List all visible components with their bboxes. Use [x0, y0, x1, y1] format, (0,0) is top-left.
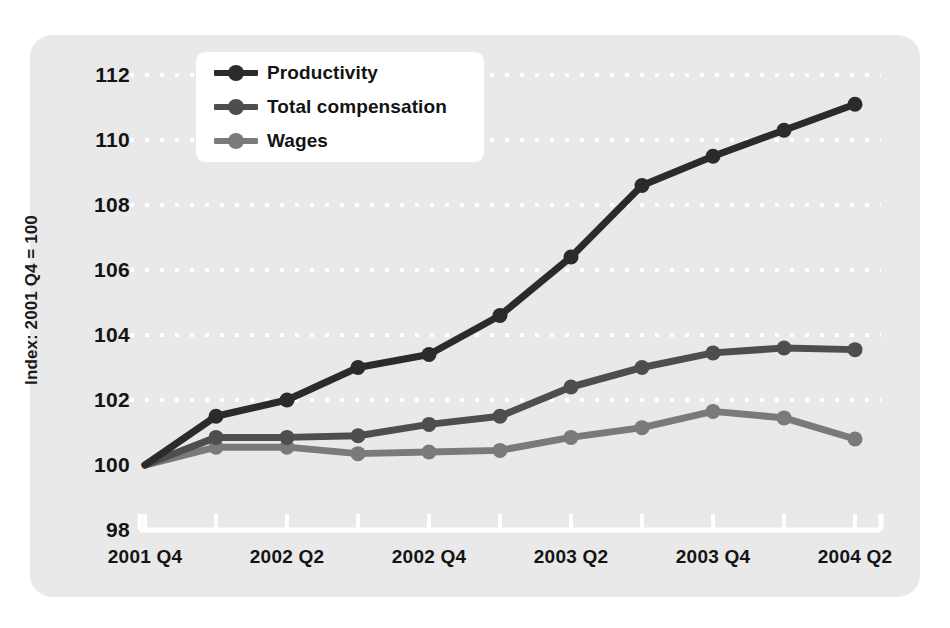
data-point-marker — [706, 404, 721, 419]
data-point-marker — [635, 360, 650, 375]
x-axis-tick-label: 2003 Q4 — [676, 546, 750, 568]
data-point-marker — [493, 409, 508, 424]
data-point-marker — [422, 347, 437, 362]
data-point-marker — [280, 430, 295, 445]
x-axis-tick-label: 2002 Q4 — [392, 546, 466, 568]
x-axis-tick-label: 2002 Q2 — [250, 546, 324, 568]
x-axis-tick-label: 2001 Q4 — [108, 546, 182, 568]
data-point-marker — [777, 410, 792, 425]
data-point-marker — [706, 149, 721, 164]
data-point-marker — [777, 341, 792, 356]
data-point-marker — [564, 380, 579, 395]
x-axis-tick-label: 2004 Q2 — [818, 546, 892, 568]
data-point-marker — [777, 123, 792, 138]
data-point-marker — [351, 428, 366, 443]
legend-marker-icon — [214, 130, 258, 152]
data-point-marker — [706, 345, 721, 360]
data-point-marker — [422, 417, 437, 432]
legend-item-productivity: Productivity — [214, 60, 378, 86]
data-point-marker — [209, 409, 224, 424]
x-axis-tick-label: 2003 Q2 — [534, 546, 608, 568]
data-point-marker — [848, 432, 863, 447]
legend-label: Productivity — [267, 62, 378, 84]
data-point-marker — [280, 393, 295, 408]
data-point-marker — [351, 446, 366, 461]
data-point-marker — [635, 420, 650, 435]
legend-item-wages: Wages — [214, 128, 328, 154]
data-point-marker — [635, 178, 650, 193]
legend-label: Wages — [267, 130, 328, 152]
line-chart: Index: 2001 Q4 = 100 9810010210410610811… — [0, 0, 950, 628]
data-point-marker — [564, 250, 579, 265]
data-point-marker — [848, 342, 863, 357]
data-point-marker — [848, 97, 863, 112]
data-point-marker — [564, 430, 579, 445]
legend-marker-icon — [214, 62, 258, 84]
chart-legend: Productivity Total compensation Wages — [196, 52, 484, 162]
legend-marker-icon — [214, 96, 258, 118]
data-point-marker — [493, 308, 508, 323]
legend-label: Total compensation — [267, 96, 447, 118]
legend-item-total-compensation: Total compensation — [214, 94, 447, 120]
data-point-marker — [351, 360, 366, 375]
data-point-marker — [493, 443, 508, 458]
data-point-marker — [422, 445, 437, 460]
data-point-marker — [209, 430, 224, 445]
